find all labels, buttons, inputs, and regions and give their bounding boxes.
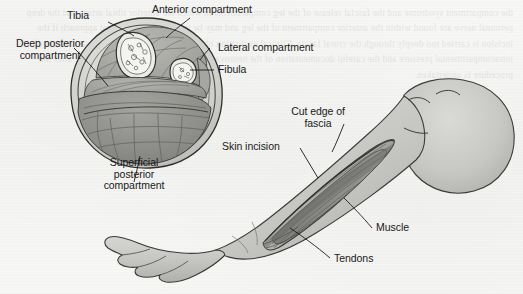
- label-muscle[interactable]: Muscle: [376, 222, 438, 234]
- label-tibia[interactable]: Tibia: [52, 10, 104, 22]
- label-lateral-compartment[interactable]: Lateral compartment: [218, 42, 328, 54]
- label-cut-edge-of-fascia[interactable]: Cut edge of fascia: [276, 106, 360, 129]
- label-anterior-compartment[interactable]: Anterior compartment: [152, 4, 272, 16]
- label-tendons[interactable]: Tendons: [334, 253, 402, 265]
- foot-shape: [105, 236, 225, 282]
- fascia-shadow-band: [262, 142, 396, 250]
- label-skin-incision[interactable]: Skin incision: [222, 141, 304, 153]
- label-fibula[interactable]: Fibula: [218, 64, 278, 76]
- figure-page: the compartment syndrome and the fascial…: [0, 0, 523, 294]
- fibula-cortex: [173, 63, 193, 82]
- label-superficial-posterior-compartment[interactable]: Superficial posterior compartment: [84, 157, 184, 192]
- label-deep-posterior-compartment[interactable]: Deep posterior compartment: [2, 38, 98, 61]
